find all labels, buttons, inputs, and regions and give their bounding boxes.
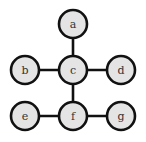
- node-e: e: [11, 102, 39, 130]
- node-label: e: [22, 110, 29, 123]
- node-label: d: [117, 64, 124, 77]
- node-label: c: [70, 64, 76, 77]
- node-g: g: [107, 102, 135, 130]
- nodes: a b c d e f g: [11, 10, 135, 130]
- node-a: a: [59, 10, 87, 38]
- node-f: f: [59, 102, 87, 130]
- graph-diagram: a b c d e f g: [0, 0, 146, 142]
- node-d: d: [107, 56, 135, 84]
- node-c: c: [59, 56, 87, 84]
- node-b: b: [11, 56, 39, 84]
- node-label: g: [117, 110, 124, 123]
- node-label: b: [21, 64, 28, 77]
- node-label: a: [70, 18, 77, 31]
